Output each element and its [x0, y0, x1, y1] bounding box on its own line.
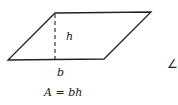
formula-eq: = — [52, 86, 68, 99]
parallelogram — [8, 12, 151, 60]
formula-lhs: A — [43, 86, 52, 99]
base-label: b — [57, 66, 64, 79]
area-formula: A = bh — [43, 86, 82, 99]
angle-symbol-partial: ∠ — [167, 57, 178, 71]
parallelogram-diagram: h b A = bh ∠ — [0, 0, 178, 105]
formula-rhs: bh — [68, 86, 82, 99]
height-label: h — [66, 30, 73, 43]
